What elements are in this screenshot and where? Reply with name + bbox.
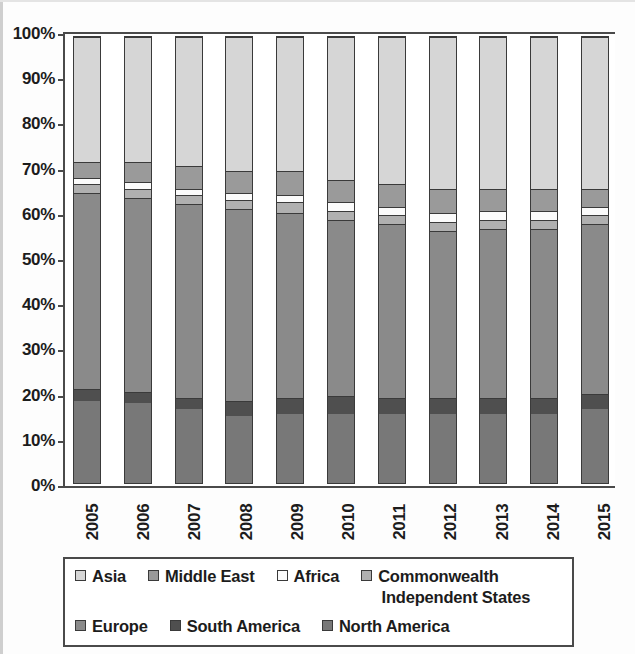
x-axis-label-slot: 2014	[530, 492, 558, 558]
bar-segment	[277, 37, 303, 171]
legend-item-asia[interactable]: Asia	[75, 566, 126, 587]
legend-item-middle-east[interactable]: Middle East	[148, 566, 255, 587]
x-tick-label: 2005	[83, 504, 103, 541]
legend-swatch-icon	[322, 620, 333, 631]
bar-segment	[379, 224, 405, 398]
bar-segment	[74, 178, 100, 185]
stacked-bar[interactable]	[378, 36, 406, 484]
bar-segment	[226, 209, 252, 401]
y-tick-mark	[58, 34, 65, 36]
bar-segment	[582, 224, 608, 393]
x-tick-label: 2008	[237, 504, 257, 541]
bar-segment	[480, 189, 506, 211]
bar-group	[67, 36, 615, 484]
bar-column	[225, 36, 253, 484]
stacked-bar[interactable]	[124, 36, 152, 484]
bar-segment	[582, 215, 608, 224]
bar-segment	[125, 162, 151, 182]
legend-swatch-icon	[361, 570, 372, 581]
bar-column	[479, 36, 507, 484]
bar-segment	[379, 215, 405, 224]
bar-segment	[125, 198, 151, 392]
bar-segment	[74, 389, 100, 400]
stacked-bar[interactable]	[327, 36, 355, 484]
bar-segment	[176, 204, 202, 398]
legend-item-africa[interactable]: Africa	[277, 566, 340, 587]
stacked-bar[interactable]	[429, 36, 457, 484]
stacked-bar[interactable]	[479, 36, 507, 484]
y-tick-mark	[58, 350, 65, 352]
stacked-bar[interactable]	[530, 36, 558, 484]
stacked-bar[interactable]	[175, 36, 203, 484]
bar-segment	[531, 220, 557, 229]
y-tick-mark	[58, 170, 65, 172]
bar-segment	[430, 231, 456, 398]
bar-segment	[531, 414, 557, 483]
bar-segment	[125, 392, 151, 403]
legend-item-north-america[interactable]: North America	[322, 616, 449, 637]
stacked-bar[interactable]	[276, 36, 304, 484]
bar-segment	[379, 37, 405, 184]
legend-swatch-icon	[75, 620, 86, 631]
y-tick-mark	[58, 215, 65, 217]
bar-segment	[582, 207, 608, 216]
y-tick-label: 90%	[22, 69, 55, 89]
bar-segment	[277, 414, 303, 483]
y-tick-mark	[58, 396, 65, 398]
stacked-bar[interactable]	[581, 36, 609, 484]
bar-segment	[328, 220, 354, 396]
x-tick-label: 2014	[544, 504, 564, 541]
bar-segment	[480, 220, 506, 229]
stacked-bar[interactable]	[73, 36, 101, 484]
legend-label: North America	[339, 616, 449, 637]
bar-segment	[531, 211, 557, 220]
bar-segment	[582, 189, 608, 207]
bar-segment	[277, 213, 303, 398]
plot-area: 100%90%80%70%60%50%40%30%20%10%0%	[63, 32, 615, 488]
bar-segment	[125, 403, 151, 483]
y-tick-label: 30%	[22, 340, 55, 360]
bar-column	[581, 36, 609, 484]
bar-segment	[226, 193, 252, 200]
bar-column	[124, 36, 152, 484]
y-tick-label: 100%	[13, 24, 55, 44]
x-axis-label-slot: 2008	[223, 492, 251, 558]
legend-item-commonwealth-independent-states[interactable]: CommonwealthIndependent States	[361, 566, 530, 608]
bar-segment	[226, 401, 252, 417]
legend-label: South America	[187, 616, 300, 637]
x-tick-label: 2007	[185, 504, 205, 541]
bar-segment	[430, 414, 456, 483]
bar-segment	[379, 207, 405, 216]
x-tick-label: 2009	[288, 504, 308, 541]
bar-segment	[277, 202, 303, 213]
legend-row-2: Europe South America North America	[75, 616, 562, 637]
y-tick-mark	[58, 79, 65, 81]
x-tick-label: 2006	[134, 504, 154, 541]
bar-segment	[531, 229, 557, 398]
legend-swatch-icon	[75, 570, 86, 581]
bar-column	[276, 36, 304, 484]
legend-item-south-america[interactable]: South America	[170, 616, 300, 637]
legend-label: Africa	[294, 566, 340, 587]
bar-column	[429, 36, 457, 484]
bar-segment	[430, 398, 456, 414]
x-tick-label: 2010	[339, 504, 359, 541]
bar-segment	[176, 195, 202, 204]
x-axis-label-slot: 2009	[274, 492, 302, 558]
bar-segment	[176, 409, 202, 483]
legend-label: Europe	[92, 616, 148, 637]
legend-label-line1: Commonwealth	[378, 567, 498, 585]
y-tick-mark	[58, 441, 65, 443]
legend-swatch-icon	[148, 570, 159, 581]
y-tick-mark	[58, 124, 65, 126]
legend-item-europe[interactable]: Europe	[75, 616, 148, 637]
y-tick-label: 50%	[22, 250, 55, 270]
legend-swatch-icon	[170, 620, 181, 631]
bar-segment	[531, 189, 557, 211]
bar-segment	[176, 37, 202, 166]
stacked-bar[interactable]	[225, 36, 253, 484]
y-tick-label: 60%	[22, 205, 55, 225]
bar-segment	[125, 189, 151, 198]
x-axis-label-slot: 2013	[479, 492, 507, 558]
bar-segment	[480, 229, 506, 398]
